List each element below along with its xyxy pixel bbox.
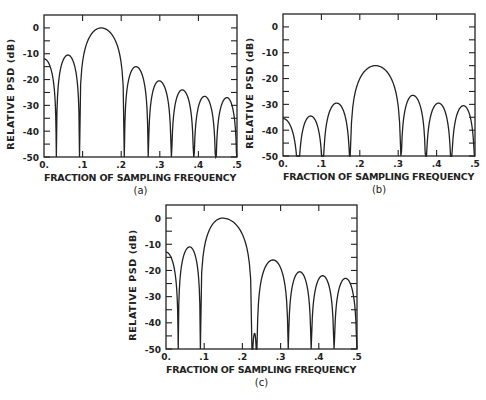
x-tick-label: .1: [199, 352, 209, 362]
x-tick-label: .1: [317, 159, 327, 169]
x-tick-label: .1: [78, 160, 88, 170]
y-tick-label: -40: [262, 126, 278, 136]
x-tick-label: 0.: [278, 159, 288, 169]
y-tick-label: 0: [272, 22, 278, 32]
x-tick-label: .3: [276, 352, 286, 362]
plot-a: 0-10-20-30-40-500..1.2.3.4.5FRACTION OF …: [5, 15, 242, 196]
subplot-caption: (c): [255, 377, 268, 388]
subplot-caption: (b): [372, 184, 386, 195]
x-tick-label: .4: [194, 160, 204, 170]
x-tick-label: .4: [314, 352, 324, 362]
y-tick-label: -50: [262, 152, 278, 162]
psd-curve: [283, 66, 475, 156]
x-tick-label: .4: [432, 159, 442, 169]
x-axis-label: FRACTION OF SAMPLING FREQUENCY: [166, 364, 357, 375]
y-tick-label: -20: [145, 266, 161, 276]
y-tick-label: -10: [262, 48, 278, 58]
y-tick-label: -50: [23, 153, 39, 163]
x-tick-label: .5: [232, 160, 242, 170]
x-tick-label: .2: [116, 160, 126, 170]
y-tick-label: -30: [145, 292, 161, 302]
y-axis-label: RELATIVE PSD (dB): [5, 38, 16, 150]
x-tick-label: .2: [355, 159, 365, 169]
x-axis-label: FRACTION OF SAMPLING FREQUENCY: [283, 171, 475, 182]
x-tick-label: .5: [352, 352, 362, 362]
y-tick-label: -30: [23, 101, 39, 111]
y-axis-label: RELATIVE PSD (dB): [244, 37, 255, 149]
y-axis-label: RELATIVE PSD (dB): [127, 229, 138, 341]
x-tick-label: .2: [238, 352, 248, 362]
y-tick-label: -40: [145, 318, 161, 328]
x-tick-label: .5: [470, 159, 480, 169]
psd-figure: 0-10-20-30-40-500..1.2.3.4.5FRACTION OF …: [0, 0, 486, 400]
x-tick-label: .3: [155, 160, 165, 170]
psd-curve: [166, 218, 357, 349]
y-tick-label: -30: [262, 100, 278, 110]
y-tick-label: -50: [145, 345, 161, 355]
y-tick-label: -20: [262, 74, 278, 84]
y-tick-label: -40: [23, 127, 39, 137]
x-tick-label: 0.: [39, 160, 49, 170]
y-tick-label: 0: [33, 23, 39, 33]
y-tick-label: -10: [145, 240, 161, 250]
x-tick-label: .3: [393, 159, 403, 169]
plot-frame: [44, 15, 237, 157]
y-tick-label: -20: [23, 75, 39, 85]
y-tick-label: 0: [155, 214, 161, 224]
x-axis-label: FRACTION OF SAMPLING FREQUENCY: [44, 172, 237, 183]
plot-b: 0-10-20-30-40-500..1.2.3.4.5FRACTION OF …: [244, 14, 480, 195]
psd-curve: [44, 28, 237, 157]
plot-frame: [283, 14, 475, 156]
y-tick-label: -10: [23, 49, 39, 59]
subplot-caption: (a): [134, 185, 148, 196]
x-tick-label: 0.: [161, 352, 171, 362]
plot-c: 0-10-20-30-40-500..1.2.3.4.5FRACTION OF …: [127, 205, 362, 388]
